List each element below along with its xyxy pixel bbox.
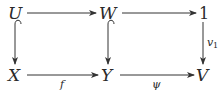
label-f: f: [59, 78, 66, 90]
label-psi: ψ: [152, 78, 161, 90]
node-W: W: [99, 3, 118, 23]
node-1: 1: [199, 4, 209, 23]
node-U: U: [8, 3, 23, 23]
hook-arrow-W-Y: [108, 20, 114, 64]
node-Y: Y: [101, 65, 114, 85]
label-v1-subscript: 1: [213, 41, 218, 50]
hook-arrow-U-X: [15, 20, 21, 64]
node-X: X: [6, 65, 21, 85]
commutative-diagram: U W 1 X Y V f ψ v 1: [0, 0, 224, 90]
node-V: V: [196, 65, 210, 85]
